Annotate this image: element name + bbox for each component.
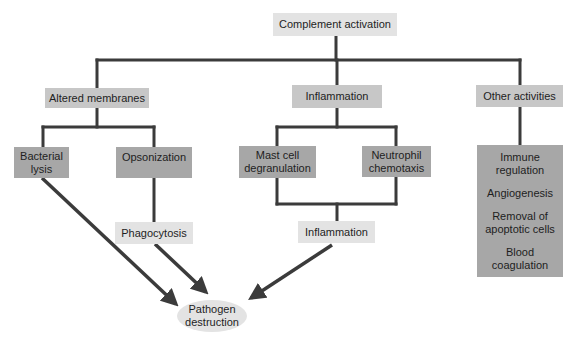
mast-cell-degranulation-label: Mast cell degranulation [241,149,314,175]
complement-activation-label: Complement activation [279,18,391,31]
pathogen-destruction-label: Pathogen destruction [182,303,242,329]
blood-coagulation-label: Blood coagulation [479,246,561,272]
neutrophil-chemotaxis-box: Neutrophil chemotaxis [362,146,431,177]
other-activities-list-box: Immune regulation Angiogenesis Removal o… [477,145,563,277]
inflammation-box: Inflammation [292,85,382,108]
pathogen-destruction-ellipse: Pathogen destruction [177,300,247,332]
other-activities-label: Other activities [483,90,556,103]
bacterial-lysis-box: Bacterial lysis [14,147,69,178]
altered-membranes-box: Altered membranes [45,88,149,108]
phagocytosis-label: Phagocytosis [121,227,186,240]
bacterial-lysis-label: Bacterial lysis [16,150,67,176]
immune-regulation-label: Immune regulation [479,151,561,177]
angiogenesis-label: Angiogenesis [487,187,553,200]
opsonization-label: Opsonization [122,151,186,164]
inflammation-label: Inflammation [306,90,369,103]
neutrophil-chemotaxis-label: Neutrophil chemotaxis [364,149,429,175]
phagocytosis-box: Phagocytosis [115,222,193,244]
altered-membranes-label: Altered membranes [49,92,145,105]
opsonization-box: Opsonization [116,147,192,178]
complement-activation-box: Complement activation [273,13,397,36]
other-activities-box: Other activities [476,85,563,107]
complement-activation-diagram: Complement activation Altered membranes … [0,0,577,339]
inflammation-result-box: Inflammation [298,221,375,243]
inflammation-result-label: Inflammation [305,226,368,239]
removal-apoptotic-cells-label: Removal of apoptotic cells [479,210,561,236]
mast-cell-degranulation-box: Mast cell degranulation [239,146,316,178]
